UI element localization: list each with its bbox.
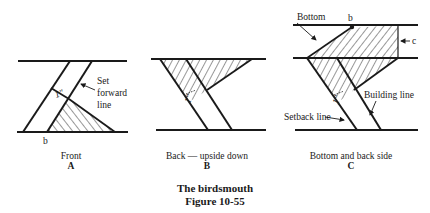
figure-title: The birdsmouth: [177, 182, 253, 194]
panel-a-caption: Front: [61, 151, 82, 161]
set-forward-label-2: forward: [97, 88, 127, 98]
set-forward-arrow: [81, 84, 95, 90]
panel-c-bottom-back: 1" Bottom b c Building line Setback line…: [284, 12, 418, 171]
panel-b-back: 1" Back — upside down B: [151, 59, 266, 171]
set-forward-label-1: Set: [97, 76, 110, 86]
panel-b-caption: Back — upside down: [166, 151, 248, 161]
panel-c-letter: C: [348, 161, 355, 171]
birdsmouth-figure: 1" Set forward line b Front A 1" Back — …: [0, 0, 430, 213]
dimension-label: 1": [53, 87, 66, 100]
point-b-marker: [350, 25, 354, 29]
building-line-arrow: [370, 101, 376, 115]
setback-line-label: Setback line: [284, 112, 331, 122]
panel-c-caption: Bottom and back side: [310, 151, 393, 161]
point-b-label: b: [348, 13, 353, 23]
panel-b-letter: B: [204, 161, 211, 171]
panel-a-front: 1" Set forward line b Front A: [17, 61, 128, 171]
hatched-bottom-region: [307, 25, 398, 58]
figure-number: Figure 10-55: [185, 195, 245, 207]
panel-a-letter: A: [68, 161, 75, 171]
bottom-label: Bottom: [297, 12, 326, 22]
c-label: c: [412, 36, 416, 46]
set-forward-label-3: line: [97, 100, 111, 110]
building-line-label: Building line: [364, 90, 414, 100]
point-b-label: b: [43, 136, 48, 146]
